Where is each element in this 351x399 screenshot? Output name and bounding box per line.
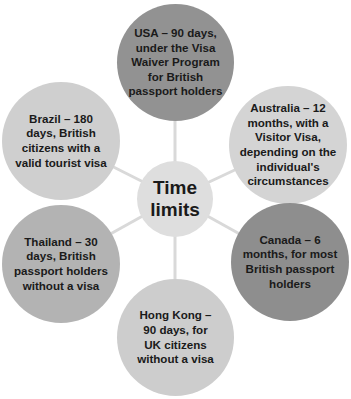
- node-canada: Canada – 6 months, for most British pass…: [231, 203, 349, 321]
- node-hong-kong-text: Hong Kong – 90 days, for UK citizens wit…: [137, 308, 214, 366]
- node-usa: USA – 90 days, under the Visa Waiver Pro…: [117, 4, 234, 121]
- node-usa-text: USA – 90 days, under the Visa Waiver Pro…: [128, 26, 222, 99]
- node-canada-text: Canada – 6 months, for most British pass…: [243, 233, 338, 291]
- node-australia: Australia – 12 months, with a Visitor Vi…: [229, 86, 347, 204]
- node-australia-text: Australia – 12 months, with a Visitor Vi…: [240, 101, 337, 189]
- node-thailand: Thailand – 30 days, British passport hol…: [2, 205, 120, 323]
- center-node-time-limits: Time limits: [137, 161, 213, 237]
- center-node-text: Time limits: [150, 177, 200, 221]
- node-hong-kong: Hong Kong – 90 days, for UK citizens wit…: [117, 279, 234, 396]
- node-brazil: Brazil – 180 days, British citizens with…: [2, 82, 120, 200]
- node-thailand-text: Thailand – 30 days, British passport hol…: [14, 235, 108, 293]
- node-brazil-text: Brazil – 180 days, British citizens with…: [15, 112, 107, 170]
- time-limits-diagram: USA – 90 days, under the Visa Waiver Pro…: [0, 0, 351, 399]
